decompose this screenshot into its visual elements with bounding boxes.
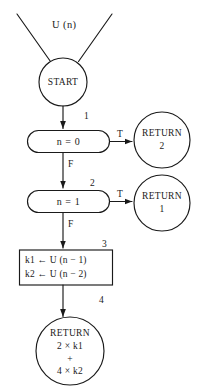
edge-label-cond2-false: F: [68, 220, 73, 230]
return2-node-shape: [134, 112, 190, 168]
return1-node-shape: [134, 175, 190, 231]
return-final-label-line2: 2 × k1: [39, 341, 101, 352]
step-number-4: 4: [99, 296, 104, 306]
step-number-3: 3: [102, 240, 107, 250]
cond1-node-label: n = 0: [27, 136, 110, 147]
return2-node-label-line2: 2: [134, 141, 190, 152]
return1-node-label-line1: RETURN: [134, 191, 190, 202]
return-final-label-line1: RETURN: [39, 328, 101, 339]
start-node-label: START: [39, 77, 87, 88]
return-final-label-line4: 4 × k2: [39, 366, 101, 377]
edge-label-cond2-true: T: [117, 190, 123, 200]
return1-node-label-line2: 1: [134, 204, 190, 215]
edge-label-cond1-false: F: [68, 160, 73, 170]
input-label: U (n): [52, 20, 76, 31]
return2-node-label-line1: RETURN: [134, 128, 190, 139]
return-final-label-line3: +: [39, 354, 101, 365]
process-node-label-line1: k1 ← U (n − 1): [25, 256, 87, 266]
process-node-label-line2: k2 ← U (n − 2): [25, 270, 87, 280]
step-number-1: 1: [84, 112, 89, 122]
step-number-2: 2: [90, 179, 95, 189]
cond2-node-label: n = 1: [27, 196, 110, 207]
input-edge-left: [17, 14, 51, 62]
edge-label-cond1-true: T: [117, 130, 123, 140]
input-edge-right: [79, 14, 113, 62]
flowchart-figure: U (n) START 1 n = 0 T RETURN 2 F 2 n = 1…: [0, 0, 201, 389]
